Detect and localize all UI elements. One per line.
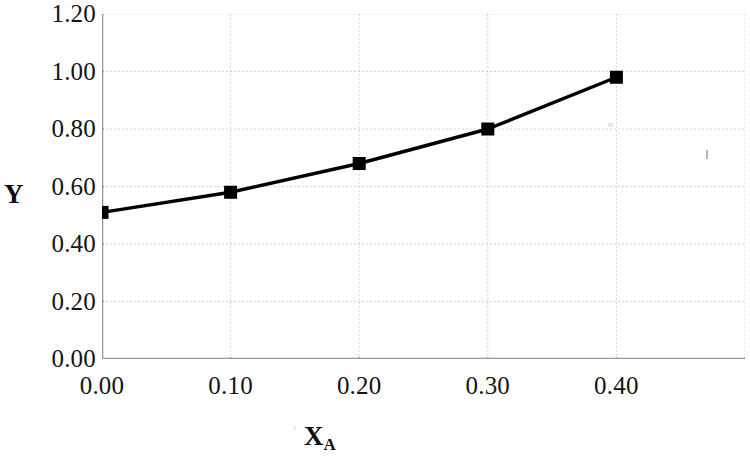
data-point-marker [353, 157, 366, 170]
x-axis-tick-label-text: 0.00 [80, 372, 125, 399]
x-axis-tick-label: 0.00 [52, 372, 152, 400]
data-point-marker [610, 71, 623, 84]
series-polyline [102, 77, 616, 212]
x-axis-tick-label-text: 0.30 [466, 372, 511, 399]
y-axis-tick-label-text: 1.20 [51, 1, 96, 26]
x-axis-tick-label: 0.30 [438, 372, 538, 400]
y-axis-tick-label-text: 0.00 [51, 346, 96, 371]
y-axis-tick-label-text: 0.60 [51, 174, 96, 199]
y-axis-tick-label-text: 1.00 [51, 59, 96, 84]
x-axis-tick-label-text: 0.20 [337, 372, 382, 399]
y-axis-tick-label-text: 0.40 [51, 231, 96, 256]
horizontal-gridlines [102, 14, 745, 359]
data-series-markers [102, 71, 623, 219]
x-axis-tick-label-text: 0.10 [208, 372, 253, 399]
x-axis-tick-label: 0.20 [309, 372, 409, 400]
data-series-line [102, 77, 616, 212]
y-axis-tick-label: 0.20 [12, 289, 96, 314]
x-axis-tick-label-text: 0.40 [594, 372, 639, 399]
scan-artifact [608, 123, 613, 127]
x-axis-title-subscript: A [324, 435, 336, 454]
data-point-marker [102, 206, 109, 219]
data-point-marker [481, 123, 494, 136]
scan-artifact [706, 150, 708, 159]
plot-canvas [102, 14, 745, 359]
y-axis-tick-label: 0.80 [12, 116, 96, 141]
y-axis-tick-label: 0.40 [12, 231, 96, 256]
x-axis-title: XA [0, 421, 640, 455]
y-axis-tick-label: 0.60 [12, 174, 96, 199]
x-axis-title-base: X [304, 421, 324, 451]
y-axis-tick-label-text: 0.80 [51, 116, 96, 141]
scan-artifact [293, 427, 296, 430]
y-axis-tick-label: 1.00 [12, 59, 96, 84]
data-point-marker [224, 186, 237, 199]
y-axis-tick-label-text: 0.20 [51, 289, 96, 314]
y-axis-tick-label: 1.20 [12, 1, 96, 26]
plot-area [102, 14, 745, 359]
x-axis-tick-label: 0.40 [566, 372, 666, 400]
line-chart: Y 0.000.200.400.600.801.001.20 0.000.100… [0, 0, 750, 460]
vertical-gridlines [231, 14, 745, 359]
x-axis-tick-label: 0.10 [181, 372, 281, 400]
y-axis-tick-label: 0.00 [12, 346, 96, 371]
